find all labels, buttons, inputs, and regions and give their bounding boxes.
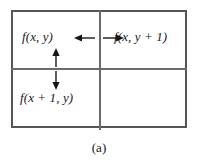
cell-label-top-left: f(x, y) <box>22 29 53 45</box>
arrow-up-icon <box>50 48 62 68</box>
arrow-left-icon <box>74 32 96 44</box>
grid-vertical-divider <box>99 10 101 130</box>
figure-diagram: f(x, y) f(x, y + 1) f(x + 1, y) (a) <box>0 0 198 167</box>
arrow-down-icon <box>50 70 62 90</box>
cell-label-bottom-left: f(x + 1, y) <box>20 90 73 106</box>
figure-caption: (a) <box>0 140 198 156</box>
grid-horizontal-divider <box>11 68 187 70</box>
arrow-right-icon <box>102 32 124 44</box>
